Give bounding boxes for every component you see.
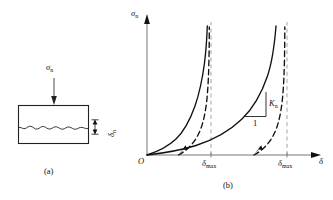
delta-max-subscript-1: max: [206, 163, 216, 169]
normal-stress-label-a: σn: [46, 62, 53, 72]
x-tick-label-2: δmax: [278, 158, 292, 168]
delta-subscript-a: n: [111, 130, 117, 133]
delta-max-subscript-2: max: [282, 163, 292, 169]
slope-run-label: 1: [253, 118, 257, 128]
y-axis-label: σn: [131, 8, 138, 18]
specimen-block-rect: [19, 106, 89, 144]
x-tick-label-1: δmax: [202, 158, 216, 168]
x-axis-label: δ: [319, 156, 323, 166]
panel-b-group: [144, 14, 321, 158]
panel-a-group: [19, 78, 99, 144]
origin-label: O: [138, 156, 144, 166]
gap-dimension-arrow-down: [93, 129, 98, 134]
sigma-subscript-b: n: [135, 13, 138, 19]
loading-curve-2: [147, 26, 276, 155]
K-subscript: n: [275, 103, 278, 109]
panel-a-caption: (a): [44, 166, 53, 176]
panel-b-caption: (b): [223, 180, 233, 190]
unloading-curve-1: [179, 27, 210, 155]
K-symbol: K: [269, 98, 275, 108]
sigma-subscript-a: n: [50, 67, 53, 73]
normal-stress-arrow-head: [51, 96, 57, 105]
figure-canvas: σn δn (a) σn O δ δmax δmax Kn 1 (b): [0, 0, 333, 200]
stiffness-label: Kn: [269, 98, 278, 108]
unloading-curve-2: [254, 27, 285, 155]
gap-dimension-arrow-up: [93, 120, 98, 125]
y-axis-arrow-head: [144, 14, 150, 24]
gap-label-a: δn: [106, 130, 116, 137]
delta-symbol-a: δ: [106, 133, 116, 137]
